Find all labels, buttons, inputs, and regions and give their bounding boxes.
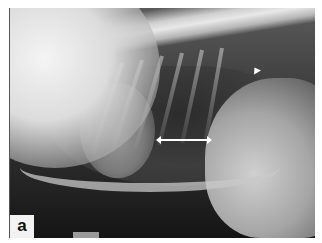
radiograph-image: a — [9, 8, 315, 238]
double-arrow-annotation — [161, 139, 207, 141]
scale-marker — [73, 232, 99, 238]
panel-label: a — [10, 215, 34, 238]
